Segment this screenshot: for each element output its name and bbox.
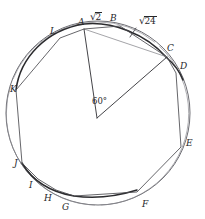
chord-bc-length: √24 xyxy=(139,16,157,26)
central-angle-label: 60° xyxy=(92,97,107,106)
chord-ab-length: √2 xyxy=(90,12,102,22)
chord-AC-secondary xyxy=(84,29,167,57)
radicand: 2 xyxy=(95,12,102,22)
chord-EF xyxy=(137,147,181,192)
radical-sqrt24: √24 xyxy=(139,16,157,26)
chord-GH xyxy=(56,190,74,196)
vertex-label-E: E xyxy=(186,139,193,148)
inscribed-polygon xyxy=(16,26,181,196)
vertex-label-K: K xyxy=(10,85,17,94)
chord-BC xyxy=(120,26,167,57)
vertex-label-H: H xyxy=(44,194,52,203)
chord-AB xyxy=(84,26,120,29)
vertex-label-J: J xyxy=(14,159,18,168)
vertex-label-D: D xyxy=(180,62,187,71)
vertex-label-B: B xyxy=(110,14,117,23)
chord-IJ xyxy=(22,163,38,179)
chord-FG xyxy=(74,192,137,196)
vertex-label-L: L xyxy=(50,27,56,36)
chord-DE xyxy=(176,73,181,147)
vertex-label-C: C xyxy=(167,44,174,53)
chord-JK xyxy=(16,90,22,163)
vertex-label-G: G xyxy=(62,203,69,212)
radius-to-C xyxy=(97,57,167,118)
vertex-label-I: I xyxy=(29,181,33,190)
radicand: 24 xyxy=(144,16,156,26)
radical-sqrt2: √2 xyxy=(90,12,102,22)
geometry-figure: A B C D E F G H I J K L √2 √24 60° xyxy=(0,0,205,219)
vertex-label-A: A xyxy=(78,18,85,27)
vertex-label-F: F xyxy=(142,200,148,209)
